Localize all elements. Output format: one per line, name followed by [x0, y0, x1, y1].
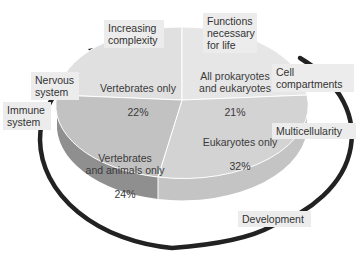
- slice-label-vertebrates-animals: Vertebrates and animals only 24%: [75, 140, 175, 200]
- pie-diagram: Increasing complexity Functions necessar…: [0, 0, 359, 262]
- slice-percent: 21%: [224, 106, 245, 118]
- slice-name: All prokaryotes and eukaryotes: [199, 70, 271, 94]
- label-functions-necessary: Functions necessary for life: [203, 13, 257, 53]
- slice-name: Vertebrates only: [100, 82, 176, 94]
- slice-percent: 22%: [127, 106, 148, 118]
- slice-name: Vertebrates and animals only: [86, 152, 165, 176]
- slice-label-vertebrates-only: Vertebrates only 22%: [93, 70, 183, 118]
- label-development: Development: [238, 211, 311, 227]
- label-nervous-system: Nervous system: [31, 72, 79, 100]
- slice-percent: 32%: [229, 160, 250, 172]
- label-increasing-complexity: Increasing complexity: [104, 20, 164, 48]
- slice-label-all-prokaryotes: All prokaryotes and eukaryotes 21%: [185, 58, 285, 118]
- label-immune-system: Immune system: [3, 102, 51, 130]
- slice-name: Eukaryotes only: [203, 136, 278, 148]
- slice-label-eukaryotes-only: Eukaryotes only 32%: [190, 124, 290, 172]
- slice-percent: 24%: [114, 188, 135, 200]
